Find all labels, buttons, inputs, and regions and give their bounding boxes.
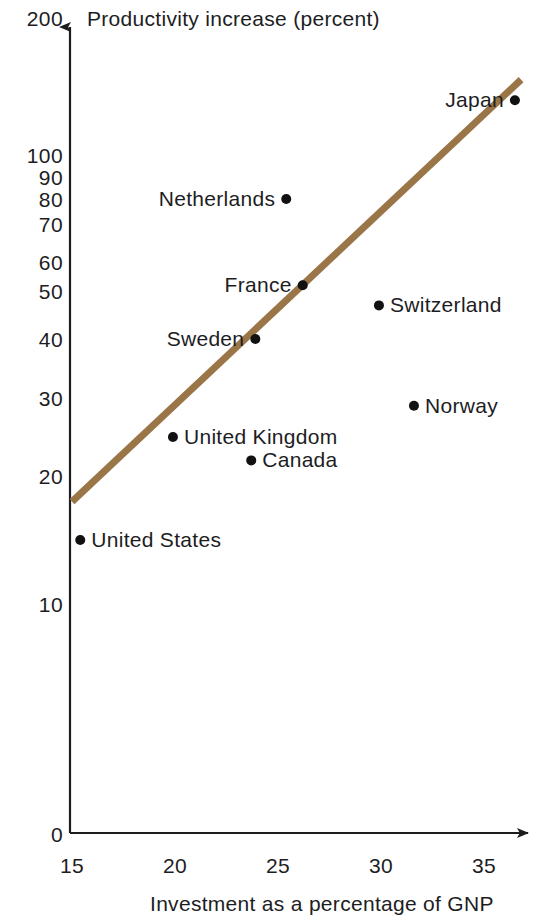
x-tick-15: 15 — [50, 855, 94, 876]
chart-container: 200 100 90 80 70 60 50 40 30 20 10 0 15 … — [0, 0, 543, 922]
y-tick-30: 30 — [39, 388, 63, 409]
y-tick-80: 80 — [39, 189, 63, 210]
y-tick-20: 20 — [39, 466, 63, 487]
y-tick-50: 50 — [39, 281, 63, 302]
y-tick-0: 0 — [51, 824, 63, 845]
y-tick-100: 100 — [27, 145, 63, 166]
x-tick-25: 25 — [256, 855, 300, 876]
x-tick-20: 20 — [153, 855, 197, 876]
data-point-label: United Kingdom — [184, 426, 338, 447]
y-tick-70: 70 — [39, 214, 63, 235]
x-tick-30: 30 — [359, 855, 403, 876]
x-axis-title: Investment as a percentage of GNP — [150, 893, 494, 914]
data-point-label: Norway — [425, 395, 498, 416]
data-point[interactable] — [374, 300, 384, 310]
x-tick-35: 35 — [462, 855, 506, 876]
data-point-label: France — [225, 274, 292, 295]
data-point[interactable] — [298, 280, 308, 290]
y-tick-90: 90 — [39, 167, 63, 188]
data-point-label: United States — [91, 529, 221, 550]
y-tick-60: 60 — [39, 252, 63, 273]
data-point[interactable] — [75, 535, 85, 545]
data-point[interactable] — [409, 401, 419, 411]
y-tick-200: 200 — [27, 8, 63, 29]
data-point-label: Japan — [445, 89, 504, 110]
data-point[interactable] — [168, 432, 178, 442]
data-point[interactable] — [281, 194, 291, 204]
data-point-label: Sweden — [167, 328, 245, 349]
data-point-label: Switzerland — [390, 294, 502, 315]
data-point-label: Netherlands — [159, 188, 276, 209]
data-point[interactable] — [250, 334, 260, 344]
y-tick-40: 40 — [39, 329, 63, 350]
y-axis-title: Productivity increase (percent) — [87, 8, 380, 29]
data-point[interactable] — [510, 95, 520, 105]
data-point[interactable] — [246, 455, 256, 465]
data-point-label: Canada — [262, 449, 337, 470]
y-tick-10: 10 — [39, 594, 63, 615]
